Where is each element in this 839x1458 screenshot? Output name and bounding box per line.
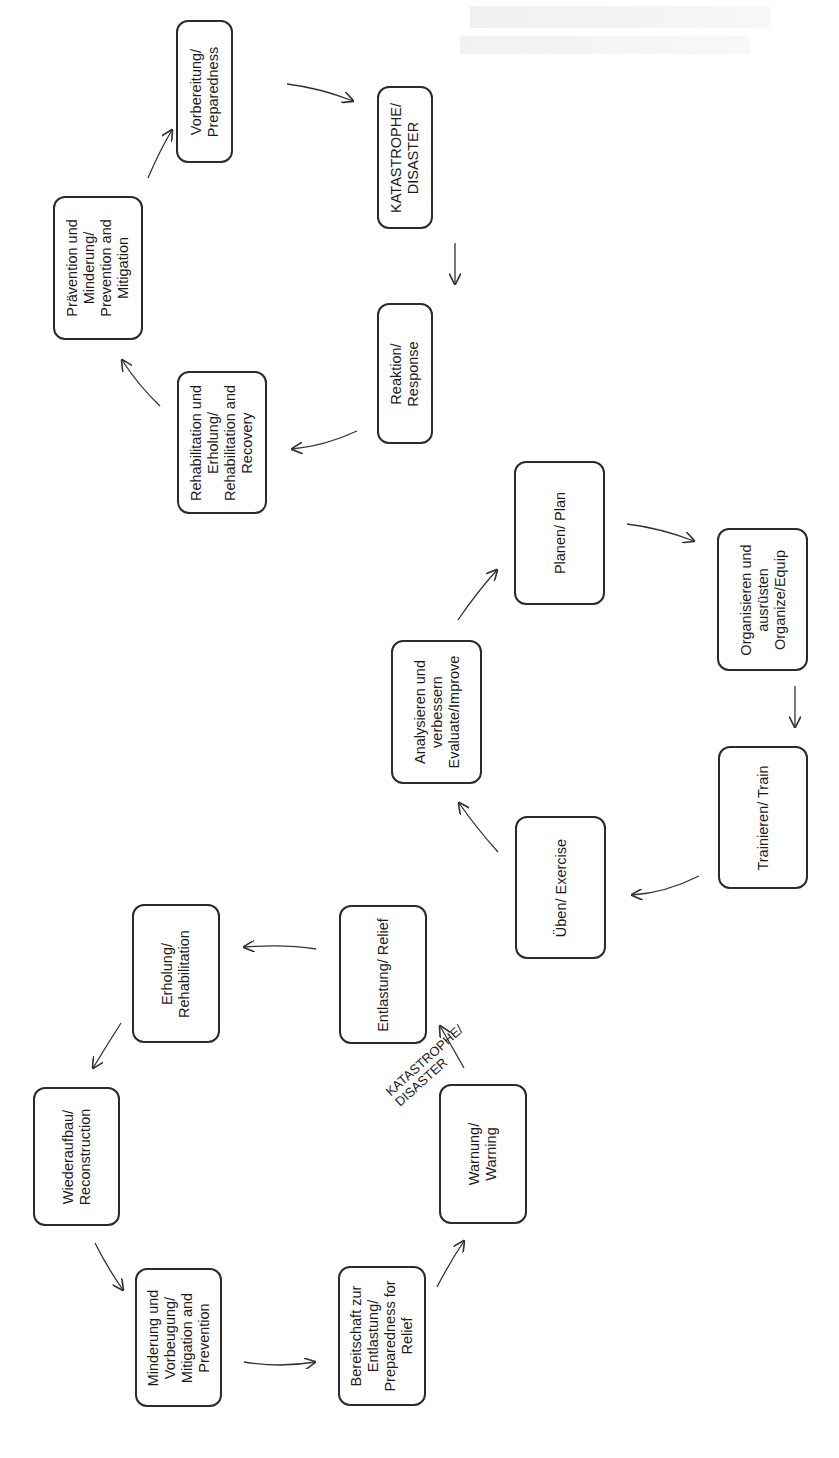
node-label: Vorbereitung/ Preparedness <box>188 46 222 136</box>
arrow-response-to-rehab <box>292 431 357 449</box>
arrow-exercise-to-evaluate <box>459 803 498 852</box>
node-plan: Planen/ Plan <box>514 461 605 605</box>
node-label: Planen/ Plan <box>551 492 568 574</box>
node-preparedness-for-relief: Bereitschaft zur Entlastung/ Preparednes… <box>338 1266 426 1406</box>
node-label: Reaktion/ Response <box>388 341 422 406</box>
arrow-evaluate-to-plan <box>458 570 497 620</box>
node-label: Trainieren/ Train <box>755 765 772 870</box>
node-relief: Entlastung/ Relief <box>339 905 427 1044</box>
node-label: Analysieren und verbessern Evaluate/Impr… <box>411 656 462 769</box>
node-label: Bereitschaft zur Entlastung/ Preparednes… <box>348 1280 416 1391</box>
arrow-rehabilitation-to-reconstruction <box>93 1023 121 1068</box>
node-warning: Warnung/ Warning <box>439 1084 527 1224</box>
node-label: Minderung und Vorbeugung/ Mitigation and… <box>145 1289 213 1386</box>
node-label: Erholung/ Rehabilitation <box>159 930 193 1018</box>
node-disaster: KATASTROPHE/ DISASTER <box>377 86 433 229</box>
node-reconstruction: Wiederaufbau/ Reconstruction <box>33 1087 120 1226</box>
arrow-relief-to-rehabilitation <box>244 946 316 949</box>
node-label: Entlastung/ Relief <box>375 918 392 1032</box>
node-mitigation-prevention: Minderung und Vorbeugung/ Mitigation and… <box>135 1268 222 1407</box>
arrow-plan-to-organize <box>627 524 694 541</box>
node-exercise: Üben/ Exercise <box>515 816 606 959</box>
node-label: KATASTROPHE/ DISASTER <box>388 103 422 213</box>
arrow-reconstruction-to-mitigation <box>95 1243 123 1290</box>
node-label: Wiederaufbau/ Reconstruction <box>60 1108 94 1205</box>
node-label: Warnung/ Warning <box>466 1123 500 1185</box>
node-preparedness: Vorbereitung/ Preparedness <box>176 20 233 163</box>
node-label: Organisieren und ausrüsten Organize/Equi… <box>737 544 788 655</box>
arrow-preparedness-to-warning <box>437 1241 464 1287</box>
node-prevention-mitigation: Prävention und Minderung/ Prevention and… <box>53 196 143 340</box>
node-label: Rehabilitation und Erholung/ Rehabilitat… <box>188 384 256 500</box>
node-rehabilitation: Erholung/ Rehabilitation <box>132 904 220 1043</box>
node-response: Reaktion/ Response <box>377 303 433 444</box>
node-organize-equip: Organisieren und ausrüsten Organize/Equi… <box>717 528 808 671</box>
node-train: Trainieren/ Train <box>718 746 808 889</box>
bleed-through-text <box>470 6 770 28</box>
arrow-rehab-to-prevention <box>122 360 160 406</box>
bleed-through-text <box>460 36 750 54</box>
arrow-train-to-exercise <box>632 876 699 895</box>
arrow-mitigation-to-preparedness <box>244 1362 315 1365</box>
arrow-preparedness-to-disaster <box>287 84 353 101</box>
node-evaluate-improve: Analysieren und verbessern Evaluate/Impr… <box>391 640 482 784</box>
node-label: Prävention und Minderung/ Prevention and… <box>64 219 132 317</box>
node-label: Üben/ Exercise <box>552 838 569 936</box>
node-rehab-recovery: Rehabilitation und Erholung/ Rehabilitat… <box>177 371 267 514</box>
arrow-prevention-to-preparedness <box>148 130 172 178</box>
